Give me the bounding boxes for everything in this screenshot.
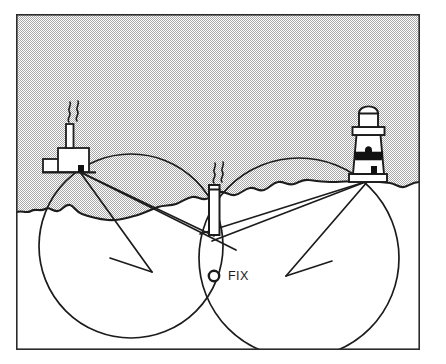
factory-annex (43, 159, 59, 172)
factory-main-building (58, 148, 89, 172)
lighthouse-window (365, 146, 372, 156)
fix-marker-circle[interactable] (209, 271, 219, 281)
chimney-stack (209, 185, 220, 235)
lighthouse-base (349, 174, 387, 182)
figure-interior: FIX (17, 15, 419, 358)
factory-smokestack (66, 124, 74, 148)
lighthouse-door (371, 166, 377, 174)
fix-label: FIX (228, 269, 249, 283)
lighthouse-lantern-room (359, 113, 378, 127)
factory-door (78, 165, 84, 172)
lighthouse-dome (359, 106, 378, 113)
lighthouse-gallery (353, 127, 385, 135)
diagram-canvas: FIX (0, 0, 446, 364)
nautical-fix-figure: FIX (0, 0, 446, 364)
